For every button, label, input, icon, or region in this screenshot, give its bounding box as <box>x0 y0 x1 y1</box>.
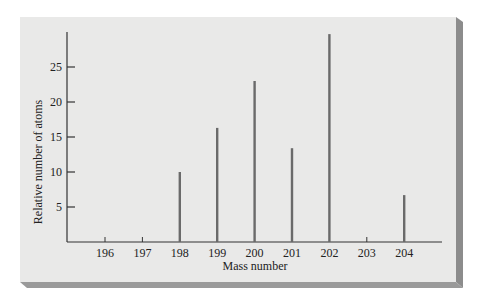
panel-shadow-bottom <box>20 282 463 288</box>
y-tick-label: 20 <box>50 95 62 109</box>
y-tick-label: 5 <box>56 200 62 214</box>
x-tick-label: 198 <box>171 246 189 260</box>
x-tick-label: 204 <box>395 246 413 260</box>
y-tick-label: 10 <box>50 165 62 179</box>
y-axis-label: Relative number of atoms <box>31 100 45 225</box>
x-tick-label: 201 <box>283 246 301 260</box>
y-tick-label: 15 <box>50 130 62 144</box>
x-tick-label: 196 <box>96 246 114 260</box>
x-tick-label: 197 <box>133 246 151 260</box>
panel-shadow-right <box>456 17 463 288</box>
x-tick-label: 203 <box>358 246 376 260</box>
x-axis-label: Mass number <box>223 259 288 273</box>
y-tick-label: 25 <box>50 60 62 74</box>
chart-panel: 510152025196197198199200201202203204 Rel… <box>0 0 485 306</box>
x-tick-label: 200 <box>246 246 264 260</box>
x-tick-label: 202 <box>320 246 338 260</box>
x-tick-label: 199 <box>208 246 226 260</box>
